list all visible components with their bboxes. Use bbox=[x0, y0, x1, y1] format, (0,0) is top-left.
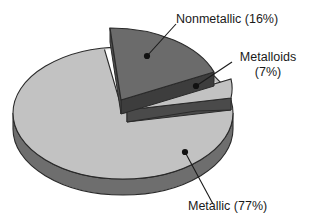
slice-label-metalloids: Metalloids (7%) bbox=[231, 50, 305, 80]
nonmetallic-callout-dot bbox=[144, 53, 150, 59]
metalloids-label-text: Metalloids bbox=[231, 50, 305, 65]
nonmetallic-label-text: Nonmetallic (16%) bbox=[176, 12, 278, 27]
metallic-label-text: Metallic (77%) bbox=[188, 199, 267, 214]
metalloids-label-value: (7%) bbox=[231, 65, 305, 80]
pie-chart-graphic bbox=[0, 0, 313, 224]
pie-chart-figure: Nonmetallic (16%) Metalloids (7%) Metall… bbox=[0, 0, 313, 224]
slice-label-metallic: Metallic (77%) bbox=[188, 199, 267, 214]
metalloids-callout-dot bbox=[193, 83, 199, 89]
metallic-callout-dot bbox=[182, 149, 188, 155]
slice-label-nonmetallic: Nonmetallic (16%) bbox=[176, 12, 278, 27]
